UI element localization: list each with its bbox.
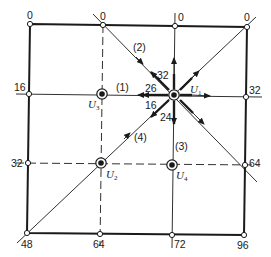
boundary-label-bottom-mid-left: 64 [93,238,105,250]
arrow-value-left: 26 [145,82,157,94]
grid-line-row-upper [16,94,262,97]
boundary-label-left-lower: 32 [11,157,23,169]
direction-label-3: (3) [175,140,188,152]
arrow-value-down: 24 [160,111,172,123]
boundary-label-top-left: 0 [27,9,33,21]
node-label-u2: U2 [106,168,118,182]
interior-node-u1 [169,90,179,100]
boundary-label-top-mid-right: 0 [178,11,184,23]
direction-label-2: (2) [133,41,146,53]
interior-node-u3 [97,89,107,99]
node-label-u1: U1 [190,83,202,97]
node-label-u4: U4 [176,169,188,183]
node-label-u3: U3 [88,98,100,112]
boundary-label-bottom-mid-right: 72 [174,238,186,250]
boundary-label-top-mid-left: 0 [100,10,106,22]
diagram-canvas: 0 0 0 0 16 32 32 64 48 64 72 96 (1) (2) … [0,0,271,257]
boundary-label-bottom-right: 96 [237,239,249,251]
boundary-label-right-upper: 32 [249,84,261,96]
direction-label-1: (1) [116,81,129,93]
grid-line-col-right [172,13,175,248]
grid-line-col-left-dashed [100,25,103,246]
arrow-value-upper-left: 32 [157,69,169,81]
direction-label-4: (4) [134,131,147,143]
boundary-label-left-upper: 16 [14,81,26,93]
arrow-value-lower-left: 16 [145,99,157,111]
boundary-label-top-right: 0 [244,11,250,23]
boundary-label-right-lower: 64 [249,157,261,169]
grid-line-row-lower-dashed [16,163,258,165]
boundary-label-bottom-left: 48 [21,238,33,250]
interior-node-u2 [96,158,106,168]
finite-difference-grid-diagram: 0 0 0 0 16 32 32 64 48 64 72 96 (1) (2) … [0,0,271,257]
